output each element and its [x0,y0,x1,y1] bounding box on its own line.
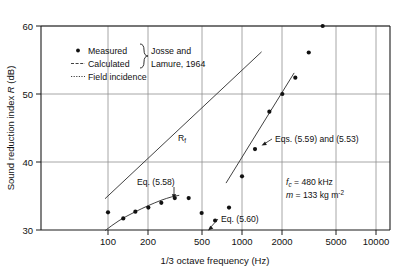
legend-label-field-incidence: Field incidence [88,72,147,82]
data-point [253,147,257,151]
sound-reduction-index-chart: 60 50 40 30 100 200 500 1000 2000 5000 1… [0,0,401,273]
data-point [240,174,244,178]
legend-brace-line1: Josse and [151,46,191,56]
ytick-label-60: 60 [22,21,33,32]
legend-marker-measured [76,49,80,53]
ytick-label-30: 30 [22,225,33,236]
data-point [133,210,137,214]
legend-label-calculated: Calculated [88,59,130,69]
xtick-label-10000: 10000 [363,236,389,247]
eq-558-label: Eq. (5.58) [137,177,175,187]
svg-text:Sound reduction index R (dB): Sound reduction index R (dB) [5,66,16,191]
xtick-label-500: 500 [194,236,210,247]
data-point [307,50,311,54]
legend-label-measured: Measured [88,46,127,56]
eq-560-label: Eq. (5.60) [221,214,259,224]
data-point [159,201,163,205]
parameter-fc: fc = 480 kHz [286,177,333,188]
data-point [280,92,284,96]
eqs-559-553-label: Eqs. (5.59) and (5.53) [275,134,359,144]
xtick-label-5000: 5000 [325,236,346,247]
data-point [321,24,325,28]
ytick-label-50: 50 [22,89,33,100]
data-point [106,210,110,214]
xtick-label-100: 100 [100,236,116,247]
xtick-label-1000: 1000 [231,236,252,247]
ytick-label-40: 40 [22,157,33,168]
parameter-m: m = 133 kg m-2 [286,189,344,200]
xtick-label-2000: 2000 [271,236,292,247]
xtick-label-200: 200 [140,236,156,247]
data-point [293,76,297,80]
data-point [121,216,125,220]
x-axis-label: 1/3 octave frequency (Hz) [161,255,270,266]
data-point [187,196,191,200]
data-point [267,110,271,114]
legend-brace-line2: Lamure, 1964 [151,59,205,69]
data-point [146,205,150,209]
data-point [227,205,231,209]
data-point [200,211,204,215]
y-axis-label: Sound reduction index R (dB) [5,66,16,191]
